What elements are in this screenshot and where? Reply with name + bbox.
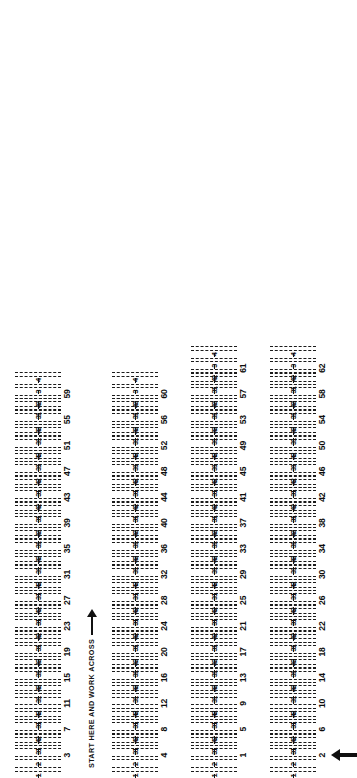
answer-slot-2[interactable]: 2 xyxy=(270,755,316,766)
answer-slot-2[interactable]: 2 xyxy=(112,471,158,482)
answer-slot-2[interactable]: 2 xyxy=(112,704,158,715)
answer-slot-2[interactable]: 2 xyxy=(15,549,61,560)
answer-slot-1[interactable]: 1 xyxy=(15,638,61,649)
answer-slot-1[interactable]: 1 xyxy=(112,766,158,777)
answer-slot-2[interactable]: 2 xyxy=(191,626,237,637)
answer-slot-2[interactable]: 2 xyxy=(270,446,316,457)
answer-slot-1[interactable]: 1 xyxy=(15,586,61,597)
answer-slot-1[interactable]: 1 xyxy=(112,534,158,545)
answer-slot-1[interactable]: 1 xyxy=(270,766,316,777)
answer-slot-2[interactable]: 2 xyxy=(112,600,158,611)
question-group[interactable]: 123462 xyxy=(270,355,327,381)
answer-slot-2[interactable]: 2 xyxy=(191,600,237,611)
answer-slot-1[interactable]: 1 xyxy=(15,715,61,726)
answer-slot-1[interactable]: 1 xyxy=(191,509,237,520)
answer-slot-1[interactable]: 1 xyxy=(112,741,158,752)
answer-slot-2[interactable]: 2 xyxy=(15,729,61,740)
answer-slot-1[interactable]: 1 xyxy=(15,741,61,752)
answer-slot-2[interactable]: 2 xyxy=(15,755,61,766)
answer-slot-2[interactable]: 2 xyxy=(270,652,316,663)
answer-slot-2[interactable]: 2 xyxy=(270,678,316,689)
answer-slot-1[interactable]: 1 xyxy=(191,380,237,391)
answer-slot-1[interactable]: 1 xyxy=(270,509,316,520)
answer-slot-1[interactable]: 1 xyxy=(191,766,237,777)
answer-slot-2[interactable]: 2 xyxy=(112,575,158,586)
answer-slot-1[interactable]: 1 xyxy=(15,612,61,623)
answer-slot-1[interactable]: 1 xyxy=(15,431,61,442)
answer-slot-2[interactable]: 2 xyxy=(191,704,237,715)
answer-slot-2[interactable]: 2 xyxy=(112,523,158,534)
answer-slot-3[interactable]: 3 xyxy=(112,383,158,394)
answer-slot-2[interactable]: 2 xyxy=(270,368,316,379)
answer-slot-2[interactable]: 2 xyxy=(191,678,237,689)
answer-slot-2[interactable]: 2 xyxy=(15,704,61,715)
answer-slot-1[interactable]: 1 xyxy=(270,612,316,623)
answer-slot-2[interactable]: 2 xyxy=(112,420,158,431)
question-group[interactable]: 123460 xyxy=(112,381,169,407)
answer-slot-3[interactable]: 3 xyxy=(270,357,316,368)
answer-slot-2[interactable]: 2 xyxy=(191,471,237,482)
answer-slot-1[interactable]: 1 xyxy=(112,509,158,520)
answer-slot-2[interactable]: 2 xyxy=(112,497,158,508)
answer-slot-2[interactable]: 2 xyxy=(270,549,316,560)
answer-slot-2[interactable]: 2 xyxy=(270,471,316,482)
answer-slot-2[interactable]: 2 xyxy=(112,549,158,560)
answer-slot-2[interactable]: 2 xyxy=(270,600,316,611)
answer-slot-2[interactable]: 2 xyxy=(15,575,61,586)
answer-slot-3[interactable]: 3 xyxy=(15,383,61,394)
answer-slot-1[interactable]: 1 xyxy=(15,509,61,520)
answer-slot-2[interactable]: 2 xyxy=(191,755,237,766)
answer-slot-1[interactable]: 1 xyxy=(270,431,316,442)
answer-slot-1[interactable]: 1 xyxy=(15,766,61,777)
answer-slot-1[interactable]: 1 xyxy=(270,534,316,545)
answer-slot-2[interactable]: 2 xyxy=(15,523,61,534)
answer-slot-2[interactable]: 2 xyxy=(191,368,237,379)
answer-slot-1[interactable]: 1 xyxy=(191,741,237,752)
answer-slot-2[interactable]: 2 xyxy=(15,497,61,508)
answer-slot-1[interactable]: 1 xyxy=(112,483,158,494)
answer-slot-1[interactable]: 1 xyxy=(191,431,237,442)
answer-slot-2[interactable]: 2 xyxy=(191,420,237,431)
answer-slot-2[interactable]: 2 xyxy=(270,575,316,586)
answer-slot-2[interactable]: 2 xyxy=(270,497,316,508)
answer-slot-1[interactable]: 1 xyxy=(191,715,237,726)
answer-slot-2[interactable]: 2 xyxy=(191,497,237,508)
question-group[interactable]: 123461 xyxy=(191,355,248,381)
answer-slot-1[interactable]: 1 xyxy=(191,534,237,545)
answer-slot-2[interactable]: 2 xyxy=(191,446,237,457)
question-group[interactable]: 123459 xyxy=(15,381,72,407)
answer-slot-2[interactable]: 2 xyxy=(15,420,61,431)
answer-slot-2[interactable]: 2 xyxy=(270,394,316,405)
answer-slot-4[interactable]: 4 xyxy=(191,345,237,356)
answer-slot-1[interactable]: 1 xyxy=(270,715,316,726)
answer-slot-1[interactable]: 1 xyxy=(112,586,158,597)
answer-slot-1[interactable]: 1 xyxy=(112,457,158,468)
answer-slot-1[interactable]: 1 xyxy=(191,612,237,623)
answer-slot-1[interactable]: 1 xyxy=(191,638,237,649)
answer-slot-2[interactable]: 2 xyxy=(15,394,61,405)
answer-slot-2[interactable]: 2 xyxy=(191,729,237,740)
answer-slot-1[interactable]: 1 xyxy=(191,560,237,571)
answer-slot-1[interactable]: 1 xyxy=(112,663,158,674)
answer-slot-1[interactable]: 1 xyxy=(15,689,61,700)
answer-slot-1[interactable]: 1 xyxy=(15,534,61,545)
answer-slot-2[interactable]: 2 xyxy=(270,626,316,637)
answer-slot-1[interactable]: 1 xyxy=(270,457,316,468)
answer-slot-2[interactable]: 2 xyxy=(270,704,316,715)
answer-slot-1[interactable]: 1 xyxy=(270,638,316,649)
answer-slot-1[interactable]: 1 xyxy=(270,663,316,674)
answer-slot-2[interactable]: 2 xyxy=(112,729,158,740)
answer-slot-3[interactable]: 3 xyxy=(191,357,237,368)
answer-slot-2[interactable]: 2 xyxy=(15,652,61,663)
answer-slot-1[interactable]: 1 xyxy=(191,663,237,674)
answer-slot-1[interactable]: 1 xyxy=(191,586,237,597)
answer-slot-2[interactable]: 2 xyxy=(191,575,237,586)
answer-slot-1[interactable]: 1 xyxy=(112,560,158,571)
answer-slot-1[interactable]: 1 xyxy=(270,560,316,571)
answer-slot-2[interactable]: 2 xyxy=(270,729,316,740)
answer-slot-2[interactable]: 2 xyxy=(15,600,61,611)
answer-slot-2[interactable]: 2 xyxy=(191,523,237,534)
answer-slot-1[interactable]: 1 xyxy=(15,405,61,416)
answer-slot-2[interactable]: 2 xyxy=(15,446,61,457)
answer-slot-2[interactable]: 2 xyxy=(112,755,158,766)
